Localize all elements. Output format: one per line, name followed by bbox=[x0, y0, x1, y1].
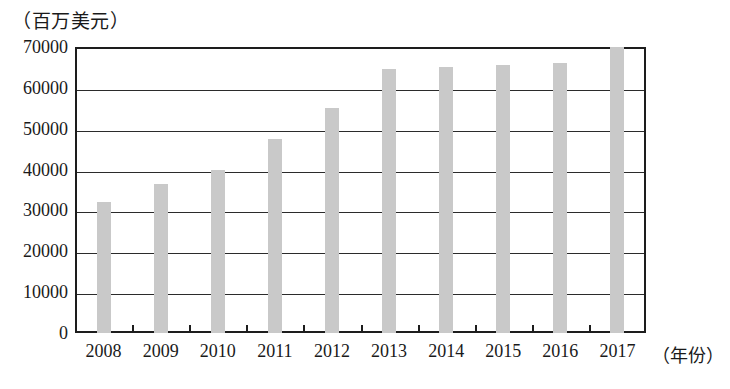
x-axis-tick bbox=[418, 325, 420, 333]
y-axis-tick-label: 70000 bbox=[0, 37, 68, 58]
bar-slot bbox=[589, 40, 646, 333]
x-axis-tick bbox=[303, 325, 305, 333]
y-axis-tick-label: 10000 bbox=[0, 282, 68, 303]
y-axis-tick-label: 50000 bbox=[0, 118, 68, 139]
y-axis-tick-label: 40000 bbox=[0, 159, 68, 180]
x-axis-tick-label: 2013 bbox=[361, 341, 418, 362]
bar-2014 bbox=[439, 67, 453, 333]
bar-2017 bbox=[610, 47, 624, 333]
bar-slot bbox=[246, 40, 303, 333]
x-axis-tick-label: 2011 bbox=[246, 341, 303, 362]
bar-slot bbox=[75, 40, 132, 333]
bar-2011 bbox=[268, 139, 282, 333]
bar-slot bbox=[132, 40, 189, 333]
y-axis-tick-labels: 700006000050000400003000020000100000 bbox=[0, 47, 68, 333]
x-axis-tick-labels: 2008200920102011201220132014201520162017 bbox=[75, 341, 646, 371]
x-axis-tick bbox=[132, 325, 134, 333]
x-axis-tick-label: 2017 bbox=[589, 341, 646, 362]
bar-2016 bbox=[553, 63, 567, 333]
x-axis-tick bbox=[589, 325, 591, 333]
bar-2015 bbox=[496, 65, 510, 333]
bar-slot bbox=[361, 40, 418, 333]
y-axis-tick-label: 0 bbox=[0, 323, 68, 344]
x-axis-tick bbox=[189, 325, 191, 333]
x-axis-tick bbox=[246, 325, 248, 333]
bar-chart: （百万美元） 700006000050000400003000020000100… bbox=[0, 0, 730, 389]
bar-2013 bbox=[382, 69, 396, 333]
bar-slot bbox=[303, 40, 360, 333]
bar-2010 bbox=[211, 170, 225, 333]
x-axis-tick-label: 2010 bbox=[189, 341, 246, 362]
bar-slot bbox=[475, 40, 532, 333]
x-axis-tick-label: 2012 bbox=[303, 341, 360, 362]
x-axis-tick-label: 2008 bbox=[75, 341, 132, 362]
y-axis-tick-label: 60000 bbox=[0, 77, 68, 98]
y-axis-unit-label: （百万美元） bbox=[12, 6, 129, 33]
x-axis-tick bbox=[361, 325, 363, 333]
x-axis-tick-label: 2009 bbox=[132, 341, 189, 362]
bar-2008 bbox=[97, 202, 111, 333]
bar-slot bbox=[418, 40, 475, 333]
x-axis-tick-label: 2016 bbox=[532, 341, 589, 362]
x-axis-tick bbox=[475, 325, 477, 333]
x-axis-tick-label: 2014 bbox=[418, 341, 475, 362]
bar-2012 bbox=[325, 108, 339, 333]
bars-layer bbox=[75, 40, 646, 333]
bar-2009 bbox=[154, 184, 168, 333]
x-axis-name: （年份） bbox=[652, 341, 724, 367]
x-axis-tick-label: 2015 bbox=[475, 341, 532, 362]
bar-slot bbox=[532, 40, 589, 333]
y-axis-tick-label: 30000 bbox=[0, 200, 68, 221]
bar-slot bbox=[189, 40, 246, 333]
y-axis-tick-label: 20000 bbox=[0, 241, 68, 262]
x-axis-tick bbox=[532, 325, 534, 333]
